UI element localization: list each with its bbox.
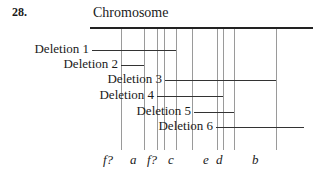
gene-label: a bbox=[130, 152, 137, 168]
gene-label: f? bbox=[147, 152, 157, 168]
marker-line bbox=[217, 29, 218, 150]
marker-line bbox=[276, 29, 277, 150]
chromosome-bar bbox=[90, 27, 313, 29]
deletion-span-line bbox=[194, 112, 234, 113]
gene-label: c bbox=[168, 152, 174, 168]
deletion-span-line bbox=[157, 96, 223, 97]
gene-label: d bbox=[216, 152, 223, 168]
chromosome-title: Chromosome bbox=[93, 5, 168, 21]
deletion-label: Deletion 5 bbox=[136, 103, 191, 119]
deletion-label: Deletion 1 bbox=[34, 41, 89, 57]
deletion-label: Deletion 2 bbox=[63, 56, 118, 72]
deletion-span-line bbox=[216, 127, 304, 128]
gene-label: e bbox=[203, 152, 209, 168]
deletion-span-line bbox=[92, 50, 176, 51]
deletion-label: Deletion 4 bbox=[99, 87, 154, 103]
gene-label: b bbox=[252, 152, 259, 168]
marker-line bbox=[223, 29, 224, 150]
deletion-label: Deletion 6 bbox=[158, 118, 213, 134]
deletion-span-line bbox=[165, 80, 276, 81]
figure-number: 28. bbox=[12, 5, 27, 20]
deletion-span-line bbox=[121, 65, 144, 66]
gene-label: f? bbox=[103, 152, 113, 168]
deletion-label: Deletion 3 bbox=[107, 71, 162, 87]
marker-line bbox=[234, 29, 235, 150]
